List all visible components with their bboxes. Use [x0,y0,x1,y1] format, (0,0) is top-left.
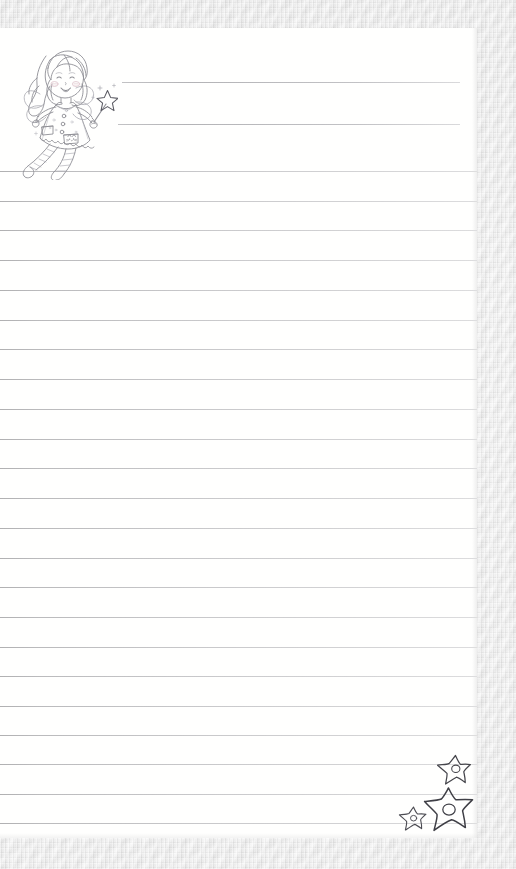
rule-line [0,230,477,231]
rule-line [0,735,477,736]
rule-line [0,647,477,648]
rule-line [0,676,477,677]
fairy-girl-illustration [6,28,118,180]
rule-line [0,320,477,321]
rule-line [0,587,477,588]
star-icon-small [398,805,428,835]
rule-line [0,617,477,618]
rule-line [0,468,477,469]
header-rule [118,124,460,125]
rule-line [0,439,477,440]
rule-line [0,201,477,202]
star-icon-large [423,786,475,836]
rule-line [0,558,477,559]
paper-sheet [0,28,477,838]
rule-line [0,764,477,765]
header-rule [122,82,460,83]
rule-line [0,260,477,261]
stationery-page [0,0,516,869]
rule-line [0,290,477,291]
rule-line [0,528,477,529]
rule-line [0,794,477,795]
star-icon-top-right [435,753,473,789]
rule-line [0,706,477,707]
rule-line [0,379,477,380]
rule-line [0,409,477,410]
rule-line [0,349,477,350]
rule-line [0,498,477,499]
